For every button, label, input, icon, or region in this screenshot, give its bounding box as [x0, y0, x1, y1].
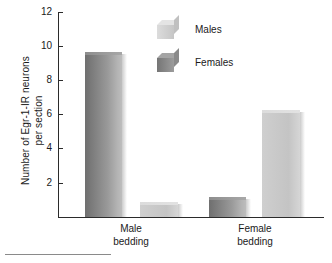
bar-front-face: [140, 205, 178, 217]
bar-shadow: [300, 112, 305, 217]
footer-divider: [5, 254, 111, 255]
y-tick-label-8: 8: [32, 75, 52, 85]
y-tick-10: [58, 46, 63, 47]
y-tick-12: [58, 12, 63, 13]
chart-legend: Males Females: [157, 14, 277, 80]
bar-shadow: [246, 199, 251, 217]
y-tick-label-10: 10: [32, 41, 52, 51]
y-tick-label-4: 4: [32, 143, 52, 153]
y-axis-line: [58, 12, 59, 218]
x-category-label-female-bedding: Female bedding: [210, 222, 300, 248]
bar-male-bedding-females: [85, 55, 122, 217]
bar-chart-figure: Number of Egr-1-IR neurons per section 1…: [0, 0, 332, 263]
x-category-label-male-bedding: Male bedding: [86, 222, 176, 248]
y-tick-8: [58, 80, 63, 81]
y-tick-2: [58, 183, 63, 184]
y-tick-label-2: 2: [32, 178, 52, 188]
legend-label-females: Females: [195, 57, 233, 68]
cube-side-face: [174, 15, 179, 34]
y-tick-4: [58, 148, 63, 149]
legend-label-males: Males: [195, 24, 222, 35]
y-tick-label-12: 12: [32, 7, 52, 17]
y-tick-6: [58, 114, 63, 115]
light-cube-swatch-icon: [157, 20, 179, 39]
cube-front-face: [157, 25, 174, 39]
bar-front-face: [262, 113, 300, 217]
x-axis-line: [58, 217, 324, 218]
y-tick-label-6: 6: [32, 109, 52, 119]
cube-side-face: [174, 48, 179, 67]
bar-shadow: [178, 204, 183, 217]
bar-female-bedding-females: [209, 200, 246, 217]
dark-cube-swatch-icon: [157, 53, 179, 72]
bar-female-bedding-males: [262, 113, 300, 217]
bar-front-face: [85, 55, 122, 217]
legend-item-females: Females: [157, 47, 277, 80]
bar-front-face: [209, 200, 246, 217]
bar-shadow: [122, 54, 127, 217]
bar-male-bedding-males: [140, 205, 178, 217]
legend-item-males: Males: [157, 14, 277, 47]
cube-front-face: [157, 58, 174, 72]
